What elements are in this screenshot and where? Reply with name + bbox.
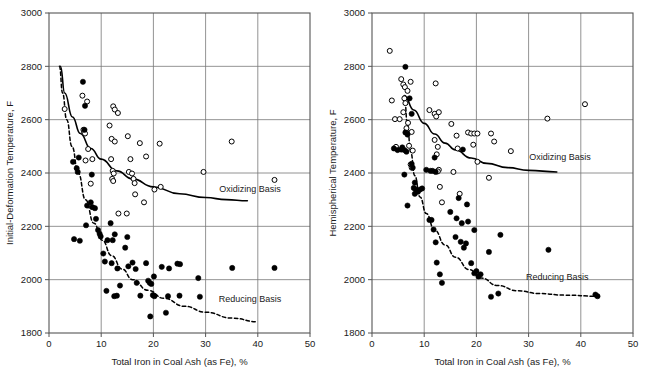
data-point-oxidizing	[109, 157, 114, 162]
gridlines	[49, 13, 310, 333]
y-tick-label: 3000	[344, 7, 365, 18]
data-point-oxidizing	[492, 139, 497, 144]
data-point-reducing	[496, 291, 501, 296]
x-tick-labels: 01020304050	[369, 338, 638, 349]
tick-marks	[368, 13, 633, 337]
data-point-oxidizing	[402, 96, 407, 101]
series-reducing-basis	[391, 64, 600, 299]
data-point-oxidizing	[582, 102, 587, 107]
data-point-reducing	[148, 314, 153, 319]
data-point-reducing	[134, 280, 139, 285]
data-point-reducing	[459, 221, 464, 226]
data-point-reducing	[420, 186, 425, 191]
data-point-reducing	[595, 294, 600, 299]
data-point-reducing	[196, 275, 201, 280]
data-point-oxidizing	[451, 169, 456, 174]
data-point-oxidizing	[403, 101, 408, 106]
data-point-reducing	[149, 281, 154, 286]
chart-panel-initial-deformation: 010203040501800200022002400260028003000T…	[0, 0, 323, 373]
data-point-reducing	[98, 234, 103, 239]
data-point-reducing	[77, 238, 82, 243]
y-axis-title: Initial-Deformation Temperature, F	[4, 101, 15, 245]
data-point-oxidizing	[449, 121, 454, 126]
data-point-oxidizing	[475, 159, 480, 164]
data-point-reducing	[498, 232, 503, 237]
data-point-reducing	[433, 240, 438, 245]
data-point-reducing	[460, 147, 465, 152]
data-point-reducing	[458, 239, 463, 244]
data-point-reducing	[478, 272, 483, 277]
data-point-reducing	[403, 64, 408, 69]
annotations: Oxidizing BasisReducing Basis	[219, 184, 282, 305]
y-tick-label: 2600	[21, 114, 42, 125]
x-tick-label: 10	[419, 338, 430, 349]
y-tick-label: 2000	[344, 274, 365, 285]
data-point-oxidizing	[80, 93, 85, 98]
data-point-reducing	[70, 159, 75, 164]
data-point-reducing	[126, 264, 131, 269]
data-point-reducing	[115, 266, 120, 271]
annotation-reducing-basis: Reducing Basis	[526, 272, 589, 282]
data-point-reducing	[429, 217, 434, 222]
data-point-oxidizing	[475, 131, 480, 136]
data-point-oxidizing	[158, 184, 163, 189]
data-point-reducing	[133, 266, 138, 271]
x-axis-title: Total Iron in Coal Ash (as Fe), %	[111, 356, 248, 367]
data-point-oxidizing	[83, 158, 88, 163]
data-point-oxidizing	[132, 181, 137, 186]
data-point-reducing	[159, 264, 164, 269]
data-point-oxidizing	[405, 88, 410, 93]
y-tick-label: 2800	[344, 61, 365, 72]
x-tick-label: 50	[628, 338, 639, 349]
data-point-reducing	[71, 237, 76, 242]
data-point-reducing	[110, 238, 115, 243]
data-point-oxidizing	[545, 116, 550, 121]
data-point-reducing	[431, 227, 436, 232]
data-point-oxidizing	[125, 134, 130, 139]
x-tick-labels: 01020304050	[46, 338, 315, 349]
y-tick-label: 2400	[344, 167, 365, 178]
y-tick-label: 2800	[21, 61, 42, 72]
data-point-oxidizing	[115, 111, 120, 116]
data-point-reducing	[404, 149, 409, 154]
data-point-reducing	[456, 195, 461, 200]
data-point-reducing	[412, 180, 417, 185]
data-point-reducing	[177, 262, 182, 267]
data-point-oxidizing	[435, 144, 440, 149]
data-point-oxidizing	[130, 171, 135, 176]
data-point-reducing	[465, 219, 470, 224]
data-point-oxidizing	[128, 157, 133, 162]
data-point-reducing	[197, 294, 202, 299]
data-point-oxidizing	[88, 181, 93, 186]
x-tick-label: 40	[253, 338, 264, 349]
data-point-reducing	[114, 293, 119, 298]
data-point-oxidizing	[427, 108, 432, 113]
data-point-oxidizing	[486, 175, 491, 180]
data-point-reducing	[166, 266, 171, 271]
data-point-reducing	[163, 310, 168, 315]
data-point-reducing	[117, 283, 122, 288]
data-point-oxidizing	[112, 139, 117, 144]
x-tick-label: 0	[369, 338, 374, 349]
data-point-reducing	[143, 261, 148, 266]
data-point-reducing	[469, 261, 474, 266]
data-point-oxidizing	[229, 139, 234, 144]
data-point-reducing	[437, 272, 442, 277]
data-point-reducing	[439, 280, 444, 285]
data-point-reducing	[102, 259, 107, 264]
data-point-reducing	[125, 234, 130, 239]
chart-panel-hemispherical: 010203040501800200022002400260028003000T…	[324, 0, 647, 373]
x-tick-label: 30	[200, 338, 211, 349]
data-point-reducing	[405, 203, 410, 208]
data-point-reducing	[82, 103, 87, 108]
y-tick-label: 1800	[344, 327, 365, 338]
data-point-reducing	[93, 216, 98, 221]
x-tick-label: 0	[46, 338, 51, 349]
data-point-reducing	[123, 245, 128, 250]
data-point-oxidizing	[401, 110, 406, 115]
data-point-oxidizing	[90, 157, 95, 162]
data-point-oxidizing	[407, 143, 412, 148]
data-point-oxidizing	[508, 149, 513, 154]
data-point-reducing	[407, 96, 412, 101]
data-point-reducing	[83, 223, 88, 228]
